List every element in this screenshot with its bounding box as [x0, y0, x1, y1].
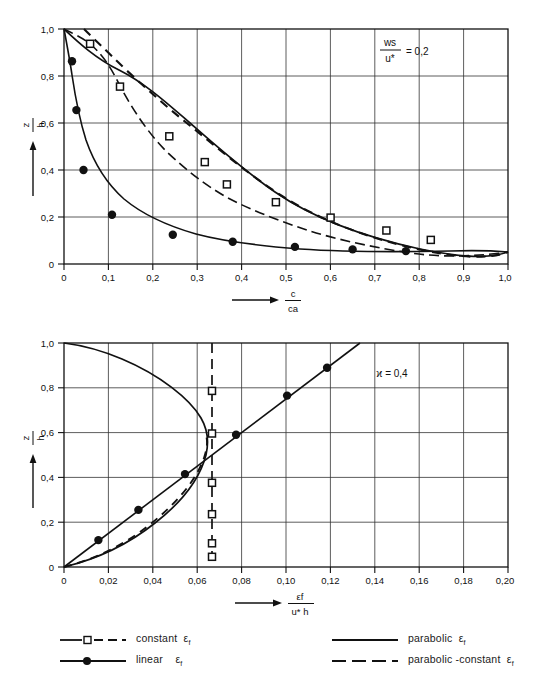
- legend-eps-symbol-2: εf: [459, 632, 466, 644]
- svg-text:0,08: 0,08: [232, 575, 251, 586]
- chart2-canvas: 1,0 0,8 0,6 0,4 0,2 0 0 0,02 0,04 0,06 0…: [0, 318, 546, 626]
- svg-text:0,20: 0,20: [496, 575, 515, 586]
- chart1-canvas: 1,0 0,8 0,6 0,4 0,2 0 0 0,1 0,2 0,3 0,4 …: [0, 0, 546, 318]
- chart2-ytick-labels: 1,0 0,8 0,6 0,4 0,2 0: [41, 338, 54, 573]
- svg-text:0,18: 0,18: [454, 575, 473, 586]
- svg-text:0,2: 0,2: [41, 517, 54, 528]
- svg-text:ws: ws: [383, 37, 396, 48]
- legend-item-constant: constant εf: [60, 632, 191, 647]
- chart1-xlabel-arrow: [232, 297, 279, 304]
- legend-symbol-constant-eps: [60, 633, 126, 647]
- svg-text:0,2: 0,2: [41, 212, 54, 223]
- svg-text:0,02: 0,02: [99, 575, 118, 586]
- svg-text:1,0: 1,0: [41, 24, 54, 35]
- chart2-xtick-labels: 0 0,02 0,04 0,06 0,08 0,10 0,12 0,14 0,1…: [61, 575, 514, 586]
- svg-text:0,3: 0,3: [191, 272, 204, 283]
- chart2-ylabel: z h: [20, 431, 46, 508]
- chart2-curve-parabolic-constant: [64, 435, 207, 567]
- legend-symbol-linear-eps: [60, 654, 126, 668]
- svg-text:0,1: 0,1: [102, 272, 115, 283]
- chart2-gridlines-vertical: [108, 343, 463, 567]
- chart2-plot-area: [58, 343, 508, 573]
- chart1-annotation: ws u* = 0,2: [380, 37, 429, 64]
- svg-text:0,8: 0,8: [41, 382, 54, 393]
- legend: constant εf linear εf parabolic: [0, 626, 546, 682]
- legend-item-linear: linear εf: [60, 653, 182, 668]
- legend-eps-symbol-1: εf: [175, 653, 182, 665]
- svg-text:0,04: 0,04: [144, 575, 163, 586]
- svg-text:0,9: 0,9: [457, 272, 470, 283]
- svg-text:u*: u*: [385, 53, 395, 64]
- svg-text:0,5: 0,5: [279, 272, 292, 283]
- svg-text:0: 0: [49, 562, 54, 573]
- chart1-xlabel: c ca: [232, 288, 301, 314]
- svg-text:0,06: 0,06: [188, 575, 207, 586]
- legend-label-linear: linear εf: [136, 653, 182, 668]
- legend-symbol-parabolic-eps: [332, 633, 398, 647]
- svg-text:c: c: [291, 288, 296, 299]
- legend-eps-symbol-0: εf: [184, 632, 191, 644]
- figure-root: 1,0 0,8 0,6 0,4 0,2 0 0 0,1 0,2 0,3 0,4 …: [0, 0, 546, 682]
- chart2-yticks: [58, 343, 64, 567]
- chart2-xlabel-arrow: [235, 600, 282, 607]
- svg-text:0,16: 0,16: [410, 575, 429, 586]
- svg-text:0,4: 0,4: [41, 472, 54, 483]
- chart-diffusivity-profile: 1,0 0,8 0,6 0,4 0,2 0 0 0,02 0,04 0,06 0…: [0, 318, 546, 626]
- chart1-ytick-labels: 1,0 0,8 0,6 0,4 0,2 0: [41, 24, 54, 270]
- svg-text:0,6: 0,6: [324, 272, 337, 283]
- svg-text:0,4: 0,4: [235, 272, 248, 283]
- chart1-curve-parabolic-constant: [84, 29, 508, 257]
- svg-text:0,8: 0,8: [41, 71, 54, 82]
- svg-text:0: 0: [61, 272, 66, 283]
- chart-concentration-profile: 1,0 0,8 0,6 0,4 0,2 0 0 0,1 0,2 0,3 0,4 …: [0, 0, 546, 318]
- chart2-curve-parabolic: [64, 343, 208, 567]
- chart2-ylabel-arrow: [30, 454, 37, 508]
- chart2-annotation: ϰ = 0,4: [376, 368, 408, 379]
- svg-text:1,0: 1,0: [41, 338, 54, 349]
- chart1-xtick-labels: 0 0,1 0,2 0,3 0,4 0,5 0,6 0,7 0,8 0,9 1,…: [61, 272, 511, 283]
- svg-text:0: 0: [49, 259, 54, 270]
- svg-text:h: h: [35, 122, 46, 127]
- chart1-yticks: [58, 29, 64, 264]
- legend-label-parabolic-constant: parabolic -constant εf: [408, 653, 514, 668]
- legend-symbol-parabolic-constant-eps: [332, 654, 398, 668]
- svg-text:z: z: [20, 122, 31, 127]
- svg-text:0,2: 0,2: [146, 272, 159, 283]
- svg-text:h: h: [35, 435, 46, 440]
- svg-text:0,4: 0,4: [41, 165, 54, 176]
- chart2-xticks: [64, 567, 508, 573]
- svg-text:0,14: 0,14: [366, 575, 385, 586]
- legend-label-constant: constant εf: [136, 632, 191, 647]
- chart1-ylabel-arrow: [30, 141, 37, 196]
- svg-text:u* h: u* h: [292, 606, 309, 617]
- svg-text:0,10: 0,10: [277, 575, 296, 586]
- svg-text:1,0: 1,0: [498, 272, 511, 283]
- legend-item-parabolic-constant: parabolic -constant εf: [332, 653, 514, 668]
- legend-label-parabolic: parabolic εf: [408, 632, 466, 647]
- svg-text:εf: εf: [297, 591, 304, 602]
- legend-eps-symbol-3: εf: [507, 653, 514, 665]
- svg-text:0,7: 0,7: [368, 272, 381, 283]
- chart2-xlabel: εf u* h: [235, 591, 314, 617]
- svg-text:0: 0: [61, 575, 66, 586]
- svg-text:0,12: 0,12: [321, 575, 340, 586]
- svg-text:z: z: [20, 435, 31, 440]
- svg-text:ca: ca: [288, 303, 299, 314]
- chart1-xticks: [64, 264, 508, 270]
- svg-text:= 0,2: = 0,2: [406, 46, 429, 57]
- svg-text:0,8: 0,8: [413, 272, 426, 283]
- chart1-ylabel: z h: [20, 118, 46, 196]
- legend-item-parabolic: parabolic εf: [332, 632, 466, 647]
- chart1-plot-area: [58, 29, 508, 270]
